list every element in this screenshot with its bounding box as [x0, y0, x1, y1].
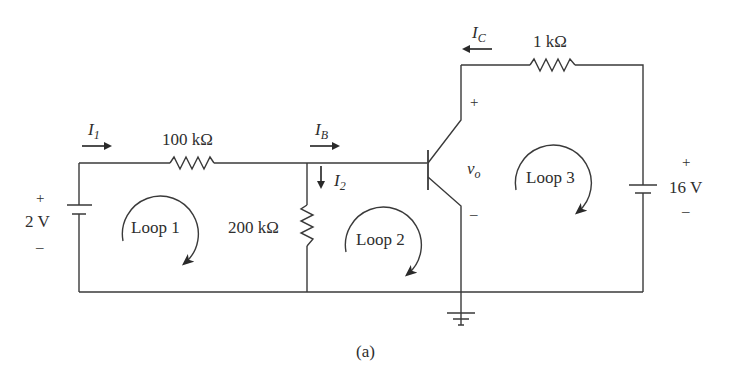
current-ic-label: IC — [472, 24, 486, 41]
resistor-1k — [530, 59, 575, 71]
loop1-label: Loop 1 — [131, 219, 180, 236]
source-16v-minus: – — [682, 204, 690, 219]
circuit-schematic — [0, 0, 730, 383]
loop2-label: Loop 2 — [356, 231, 405, 248]
source-16v-label: 16 V — [669, 179, 702, 196]
vo-minus: – — [470, 207, 478, 222]
current-i2-label: I2 — [334, 172, 346, 189]
source-2v-minus: – — [36, 240, 44, 255]
battery-16v-icon — [629, 185, 657, 193]
transistor-emitter — [428, 177, 461, 325]
source-2v-plus: + — [36, 191, 44, 206]
resistor-100k — [170, 157, 214, 169]
source-16v-plus: + — [682, 155, 690, 170]
resistor-100k-label: 100 kΩ — [162, 131, 213, 148]
figure-caption: (a) — [356, 343, 375, 360]
transistor-collector — [428, 65, 461, 163]
vo-plus: + — [470, 95, 478, 110]
loop3-label: Loop 3 — [526, 169, 575, 186]
wire-top-right2 — [575, 65, 643, 292]
source-2v-label: 2 V — [25, 213, 50, 230]
current-i1-label: I1 — [88, 121, 100, 138]
battery-2v-icon — [67, 205, 92, 214]
resistor-1k-label: 1 kΩ — [533, 33, 567, 50]
vo-label: vo — [467, 160, 481, 177]
resistor-200k — [301, 205, 313, 246]
resistor-200k-label: 200 kΩ — [228, 219, 279, 236]
current-ib-label: IB — [315, 121, 328, 138]
